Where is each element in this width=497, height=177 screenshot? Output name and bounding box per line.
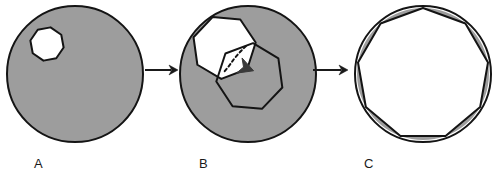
arrow-a-to-b: [145, 65, 178, 75]
arrow-b-to-c: [313, 65, 348, 75]
panel-c-circle-outline: [355, 6, 491, 142]
panel-label-c: C: [364, 156, 373, 171]
three-stage-pore-diagram: A B C: [0, 0, 497, 177]
panel-b-disc: [180, 6, 316, 142]
panel-c: [355, 6, 491, 142]
panel-a-disc: [7, 6, 143, 142]
panel-b: [180, 6, 316, 142]
panel-a-small-polygon-hole: [30, 27, 63, 60]
panel-a: [7, 6, 143, 142]
panel-label-a: A: [34, 156, 43, 171]
figure-container: A B C: [0, 0, 497, 177]
panel-c-inscribed-polygon: [358, 8, 488, 136]
panel-label-b: B: [199, 156, 208, 171]
panel-c-ring-segments: [357, 8, 489, 140]
